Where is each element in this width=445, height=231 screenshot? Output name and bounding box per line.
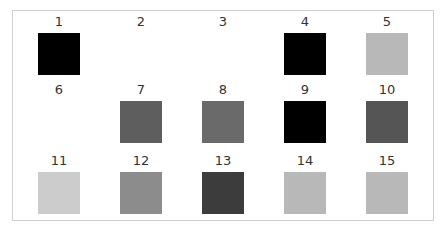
color-swatch [38,33,80,75]
swatch-label: 6 [29,82,89,97]
swatch-label: 12 [111,153,171,168]
swatch-cell-9: 9 [275,82,335,143]
swatch-cell-14: 14 [275,153,335,214]
swatch-label: 3 [193,14,253,29]
swatch-cell-5: 5 [357,14,417,75]
swatch-cell-12: 12 [111,153,171,214]
swatch-label: 5 [357,14,417,29]
color-swatch [202,101,244,143]
swatch-label: 7 [111,82,171,97]
color-swatch [284,172,326,214]
swatch-cell-1: 1 [29,14,89,75]
swatch-label: 13 [193,153,253,168]
color-swatch [38,101,80,143]
swatch-cell-11: 11 [29,153,89,214]
swatch-label: 9 [275,82,335,97]
swatch-label: 4 [275,14,335,29]
swatch-cell-3: 3 [193,14,253,75]
swatch-label: 15 [357,153,417,168]
swatch-cell-10: 10 [357,82,417,143]
color-swatch [120,172,162,214]
swatch-cell-13: 13 [193,153,253,214]
color-swatch [202,172,244,214]
swatch-cell-8: 8 [193,82,253,143]
color-swatch [284,33,326,75]
color-swatch [38,172,80,214]
swatch-label: 10 [357,82,417,97]
swatch-cell-4: 4 [275,14,335,75]
color-swatch [120,101,162,143]
swatch-cell-2: 2 [111,14,171,75]
swatch-cell-15: 15 [357,153,417,214]
swatch-label: 1 [29,14,89,29]
swatch-label: 14 [275,153,335,168]
color-swatch [366,172,408,214]
color-swatch [284,101,326,143]
swatch-label: 8 [193,82,253,97]
color-swatch [366,101,408,143]
swatch-label: 2 [111,14,171,29]
color-swatch [120,33,162,75]
swatch-label: 11 [29,153,89,168]
swatch-cell-7: 7 [111,82,171,143]
color-swatch [366,33,408,75]
color-swatch [202,33,244,75]
swatch-cell-6: 6 [29,82,89,143]
